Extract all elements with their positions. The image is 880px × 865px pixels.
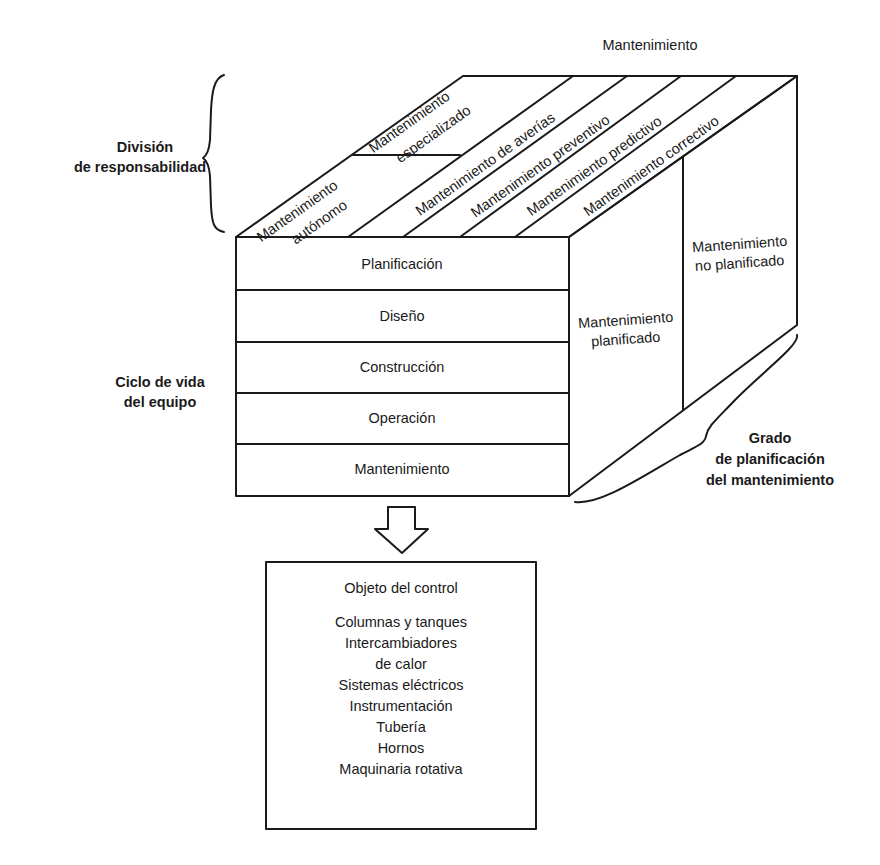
row-mantenimiento: Mantenimiento (354, 461, 449, 477)
control-item: Intercambiadores (345, 635, 457, 651)
row-construccion: Construcción (360, 359, 445, 375)
row-planificacion: Planificación (361, 256, 442, 272)
control-item: de calor (375, 656, 427, 672)
control-item: Instrumentación (349, 698, 452, 714)
grado-label-line2: de planificación (715, 451, 825, 467)
grado-label-line1: Grado (749, 430, 792, 446)
down-arrow-icon (375, 507, 428, 553)
grado-label-line3: del mantenimiento (706, 472, 834, 488)
control-item: Columnas y tanques (335, 614, 467, 630)
division-brace (203, 75, 224, 232)
maintenance-cube-diagram: Mantenimiento División de responsabilida… (0, 0, 880, 865)
division-label-line2: de responsabilidad (74, 159, 206, 175)
planned-label-line2: planificado (591, 329, 661, 350)
top-axis-label: Mantenimiento (602, 37, 697, 53)
control-item: Tubería (376, 719, 426, 735)
row-diseno: Diseño (379, 308, 424, 324)
control-item: Sistemas eléctricos (339, 677, 464, 693)
row-operacion: Operación (369, 410, 436, 426)
control-item: Maquinaria rotativa (339, 761, 463, 777)
ciclo-label-line1: Ciclo de vida (115, 374, 205, 390)
control-item: Hornos (378, 740, 425, 756)
unplanned-label-line2: no planificado (694, 252, 784, 274)
division-label-line1: División (117, 139, 173, 155)
ciclo-label-line2: del equipo (124, 394, 197, 410)
control-box (266, 562, 536, 829)
control-box-title: Objeto del control (344, 580, 458, 596)
